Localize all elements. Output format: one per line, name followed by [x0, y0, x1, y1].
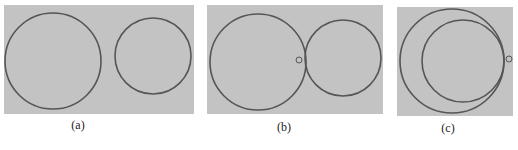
- outer-circle: [400, 9, 504, 113]
- small-circle: [305, 20, 381, 96]
- contact-marker: [506, 56, 512, 62]
- panel-a-drawing: [4, 5, 194, 114]
- large-circle: [210, 14, 306, 110]
- caption-b: (b): [264, 120, 304, 135]
- panel-c: [397, 7, 513, 116]
- caption-a: (a): [58, 118, 98, 133]
- small-circle: [115, 18, 191, 94]
- panel-c-drawing: [397, 7, 513, 116]
- panel-b: [207, 5, 383, 114]
- inner-circle: [422, 20, 504, 102]
- caption-c: (c): [428, 121, 468, 136]
- panel-b-drawing: [207, 5, 383, 114]
- large-circle: [5, 13, 101, 109]
- panel-a: [4, 5, 194, 114]
- contact-marker: [296, 57, 302, 63]
